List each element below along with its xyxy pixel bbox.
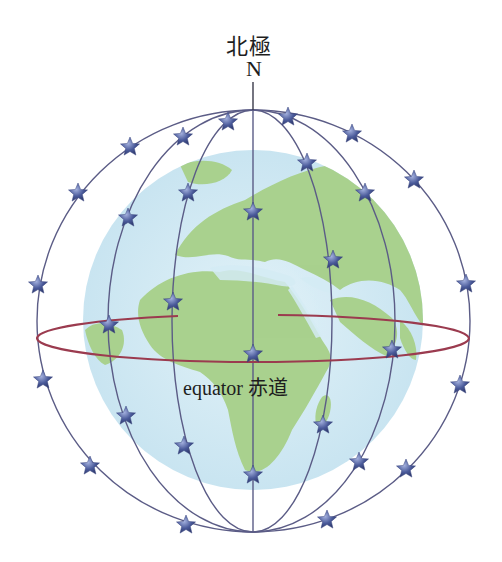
satellite-constellation-diagram: 北極 N equator 赤道 — [0, 0, 502, 562]
satellite-star-icon — [397, 459, 416, 477]
satellite-star-icon — [81, 456, 100, 474]
satellite-star-icon — [318, 510, 337, 528]
equator-label: equator 赤道 — [183, 372, 288, 401]
satellite-star-icon — [29, 275, 48, 293]
satellite-star-icon — [279, 107, 298, 125]
satellite-star-icon — [177, 515, 196, 533]
satellite-star-icon — [343, 124, 362, 142]
diagram-canvas — [0, 0, 502, 562]
satellite-star-icon — [457, 274, 476, 292]
north-pole-label-n: N — [246, 56, 262, 82]
satellite-star-icon — [451, 375, 470, 393]
satellite-star-icon — [34, 370, 53, 388]
